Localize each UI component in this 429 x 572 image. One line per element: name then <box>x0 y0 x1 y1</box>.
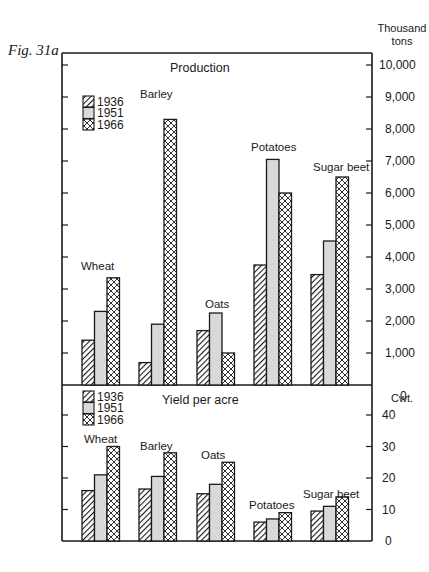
legend-swatch-1936 <box>83 96 94 107</box>
y-tick-label: 10 <box>382 503 395 517</box>
bar-sugar-beet-1966 <box>336 497 349 541</box>
y-tick-label: 6,000 <box>385 186 415 200</box>
bar-oats-1936 <box>197 494 210 541</box>
y-tick-label: 3,000 <box>385 282 415 296</box>
bars <box>82 119 349 541</box>
bar-potatoes-1966 <box>279 513 292 541</box>
y-tick-label: 5,000 <box>385 218 415 232</box>
bar-sugar-beet-1951 <box>324 241 337 385</box>
bar-sugar-beet-1936 <box>311 511 324 541</box>
legend-swatch-1936 <box>83 391 94 402</box>
bar-oats-1966 <box>222 462 235 541</box>
y-tick-label: 4,000 <box>385 250 415 264</box>
category-label: Potatoes <box>251 141 296 153</box>
y-tick-label: 2,000 <box>385 314 415 328</box>
bar-oats-1936 <box>197 331 210 385</box>
bar-oats-1966 <box>222 353 235 385</box>
legend-label: 1966 <box>97 414 124 426</box>
bar-oats-1951 <box>210 484 223 541</box>
bar-potatoes-1936 <box>254 265 267 385</box>
bar-sugar-beet-1966 <box>336 177 349 385</box>
bar-barley-1966 <box>164 453 177 541</box>
category-label: Oats <box>201 449 225 461</box>
y-tick-label: 40 <box>382 408 395 422</box>
bar-potatoes-1951 <box>267 519 280 541</box>
bar-potatoes-1966 <box>279 193 292 385</box>
bar-wheat-1951 <box>95 475 108 541</box>
category-label: Barley <box>140 88 173 100</box>
category-label: Wheat <box>84 433 117 445</box>
legend-label: 1966 <box>97 119 124 131</box>
bar-barley-1951 <box>152 324 165 385</box>
legend-swatch-1951 <box>83 403 94 414</box>
category-label: Wheat <box>81 260 114 272</box>
category-label: Sugar beet <box>313 161 369 173</box>
y-tick-label: 9,000 <box>385 90 415 104</box>
category-label: Barley <box>140 440 173 452</box>
legend-swatch-1966 <box>83 119 94 130</box>
bar-wheat-1936 <box>82 491 95 541</box>
y-tick-label: 10,000 <box>379 58 416 72</box>
bar-potatoes-1936 <box>254 522 267 541</box>
bar-oats-1951 <box>210 313 223 385</box>
category-label: Potatoes <box>249 499 294 511</box>
bar-barley-1936 <box>139 363 152 385</box>
y-tick-label: 20 <box>382 471 395 485</box>
y-tick-label: 30 <box>382 440 395 454</box>
y-tick-label: 0 <box>400 389 407 403</box>
bar-barley-1966 <box>164 119 177 385</box>
legend-swatch-1966 <box>83 414 94 425</box>
bar-wheat-1951 <box>95 311 108 385</box>
y-tick-label: 7,000 <box>385 154 415 168</box>
bar-sugar-beet-1936 <box>311 275 324 385</box>
category-label: Oats <box>205 298 229 310</box>
bar-potatoes-1951 <box>267 159 280 385</box>
y-tick-label: 8,000 <box>385 122 415 136</box>
bar-barley-1936 <box>139 489 152 541</box>
legend-swatch-1951 <box>83 108 94 119</box>
bar-wheat-1936 <box>82 340 95 385</box>
bar-wheat-1966 <box>107 278 120 385</box>
y-tick-label: 0 <box>385 534 392 548</box>
bar-barley-1951 <box>152 476 165 541</box>
category-label: Sugar beet <box>303 488 359 500</box>
bar-sugar-beet-1951 <box>324 506 337 541</box>
bar-wheat-1966 <box>107 447 120 542</box>
chart-canvas <box>0 0 429 572</box>
y-tick-label: 1,000 <box>385 346 415 360</box>
